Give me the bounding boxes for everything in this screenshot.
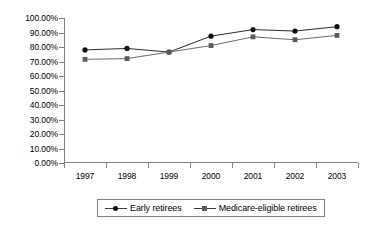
data-point-marker-square bbox=[335, 33, 340, 38]
data-point-marker-square bbox=[293, 37, 298, 42]
y-axis-tickmark bbox=[59, 76, 64, 77]
y-axis-tickmark bbox=[59, 47, 64, 48]
data-point-marker-square bbox=[251, 34, 256, 39]
data-point-marker-square bbox=[125, 56, 130, 61]
data-point-marker-diamond bbox=[208, 34, 213, 39]
data-series-layer bbox=[0, 0, 366, 226]
y-axis-tickmark bbox=[59, 120, 64, 121]
y-axis-tickmark bbox=[59, 91, 64, 92]
y-axis-tickmark bbox=[59, 18, 64, 19]
y-axis-tickmark bbox=[59, 163, 64, 164]
y-axis-tickmark bbox=[59, 149, 64, 150]
y-axis-tickmark bbox=[59, 33, 64, 34]
data-point-marker-square bbox=[83, 57, 88, 62]
legend-entry-early-retirees: Early retirees bbox=[105, 203, 182, 213]
square-marker-icon bbox=[194, 204, 216, 213]
legend-entry-medicare-eligible-retirees: Medicare-eligible retirees bbox=[194, 203, 317, 213]
data-point-marker-diamond bbox=[124, 46, 129, 51]
line-chart: 100.00%90.00%80.00%70.00%60.00%50.00%40.… bbox=[0, 0, 366, 226]
diamond-marker-icon bbox=[105, 204, 127, 213]
chart-legend: Early retirees Medicare-eligible retiree… bbox=[97, 199, 325, 217]
y-axis-tickmark bbox=[59, 62, 64, 63]
data-point-marker-diamond bbox=[334, 24, 339, 29]
y-axis-tickmark bbox=[59, 134, 64, 135]
legend-label-medicare-eligible-retirees: Medicare-eligible retirees bbox=[219, 203, 317, 213]
data-point-marker-square bbox=[167, 50, 172, 55]
data-point-marker-diamond bbox=[82, 47, 87, 52]
y-axis-tickmark bbox=[59, 105, 64, 106]
legend-label-early-retirees: Early retirees bbox=[130, 203, 182, 213]
data-point-marker-diamond bbox=[250, 27, 255, 32]
data-point-marker-diamond bbox=[292, 28, 297, 33]
data-point-marker-square bbox=[209, 43, 214, 48]
